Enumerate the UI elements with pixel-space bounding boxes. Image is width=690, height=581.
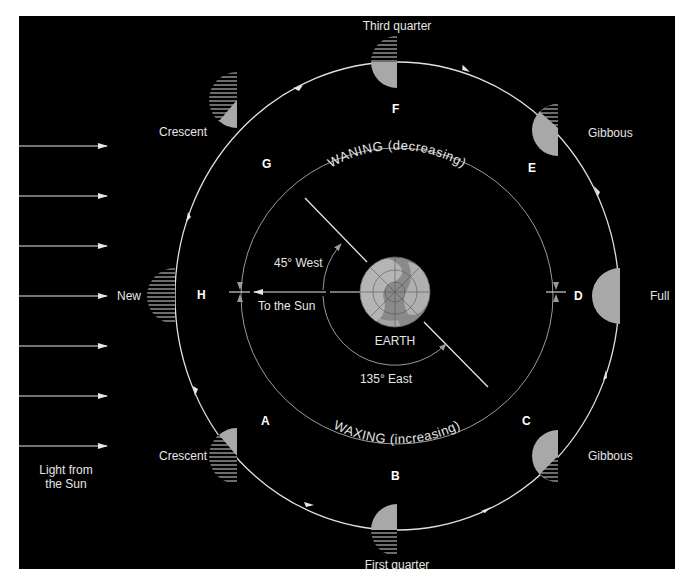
phase-label-a: Crescent: [159, 450, 207, 462]
position-letter-e: E: [528, 162, 536, 174]
position-letter-f: F: [392, 103, 399, 115]
earth-label: EARTH: [375, 335, 415, 347]
position-letter-a: A: [261, 415, 270, 427]
position-letter-c: C: [522, 415, 531, 427]
diagram-canvas: WANING (decreasing) WAXING (increasing): [0, 0, 690, 581]
phase-label-d: Full: [650, 290, 669, 302]
west-angle-label: 45° West: [274, 257, 323, 269]
sunlight-label-line2: the Sun: [45, 478, 86, 490]
sunlight-label-line1: Light from: [39, 464, 92, 476]
position-letter-d: D: [574, 290, 583, 302]
to-sun-label: To the Sun: [258, 300, 315, 312]
position-letter-g: G: [262, 158, 271, 170]
east-angle-label: 135° East: [360, 373, 412, 385]
phase-label-g: Crescent: [159, 126, 207, 138]
position-letter-b: B: [391, 470, 400, 482]
moon-phases-diagram: WANING (decreasing) WAXING (increasing): [0, 0, 690, 581]
phase-label-f: Third quarter: [363, 20, 432, 32]
phase-label-h: New: [117, 290, 141, 302]
phase-label-b: First quarter: [365, 559, 430, 571]
phase-label-e: Gibbous: [588, 127, 633, 139]
position-letter-h: H: [197, 289, 206, 301]
phase-label-c: Gibbous: [588, 450, 633, 462]
